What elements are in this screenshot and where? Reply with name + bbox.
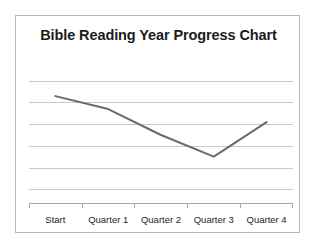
x-axis-label-quarter-2: Quarter 2: [135, 211, 188, 229]
x-axis-label-start: Start: [29, 211, 82, 229]
chart-title: Bible Reading Year Progress Chart: [30, 26, 287, 45]
x-axis-tick-1: [82, 203, 83, 208]
chart-frame: Bible Reading Year Progress Chart Start …: [15, 15, 300, 233]
x-axis-line: [29, 203, 293, 204]
chart-screenshot: Bible Reading Year Progress Chart Start …: [0, 0, 321, 247]
x-axis-label-quarter-3: Quarter 3: [187, 211, 240, 229]
series-line-progress: [29, 66, 293, 203]
x-axis-tick-5: [292, 203, 293, 208]
x-axis-label-quarter-1: Quarter 1: [82, 211, 135, 229]
x-axis-category-labels: Start Quarter 1 Quarter 2 Quarter 3 Quar…: [29, 211, 293, 229]
x-axis-tick-4: [240, 203, 241, 208]
x-axis-tick-3: [187, 203, 188, 208]
x-axis-label-quarter-4: Quarter 4: [240, 211, 293, 229]
plot-area: [29, 66, 293, 203]
x-axis-tick-0: [29, 203, 30, 208]
x-axis-tick-2: [134, 203, 135, 208]
